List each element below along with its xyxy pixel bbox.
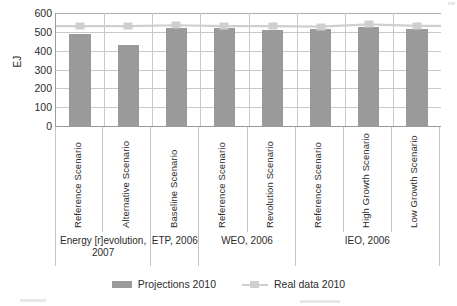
- category-label: Reference Scenario: [72, 142, 83, 228]
- y-tick-label: 300: [18, 65, 52, 75]
- scan-artifact: [300, 300, 340, 303]
- group-label: Energy [r]evolution, 2007: [56, 235, 150, 259]
- chart-legend: Projections 2010 Real data 2010: [0, 274, 457, 294]
- scan-artifact: [448, 2, 455, 5]
- category-label: Reference Scenario: [216, 142, 227, 228]
- group-cell: IEO, 2006: [296, 232, 440, 266]
- category-cell: Alternative Scenario: [103, 127, 151, 232]
- category-cell: Reference Scenario: [55, 127, 103, 232]
- data-point-marker: [412, 22, 421, 29]
- category-label: Reference Scenario: [312, 142, 323, 228]
- legend-item-real-data: Real data 2010: [242, 278, 345, 290]
- data-point-marker: [268, 23, 277, 30]
- category-label: Low Growth Scenario: [408, 135, 419, 228]
- category-label: Revolution Scenario: [264, 141, 275, 228]
- group-label: ETP, 2006: [152, 235, 198, 247]
- category-axis: Reference ScenarioAlternative ScenarioBa…: [55, 127, 440, 232]
- y-tick-label: 100: [18, 102, 52, 112]
- group-cell: WEO, 2006: [199, 232, 295, 266]
- category-cell: Reference Scenario: [296, 127, 344, 232]
- data-point-marker: [76, 23, 85, 30]
- category-cell: Low Growth Scenario: [392, 127, 440, 232]
- data-point-marker: [220, 23, 229, 30]
- category-label: High Growth Scenario: [360, 133, 371, 228]
- y-axis-tick-labels: 6005004003002001000: [18, 0, 52, 135]
- category-cell: Baseline Scenario: [151, 127, 199, 232]
- group-label: WEO, 2006: [221, 235, 273, 247]
- category-cell: Revolution Scenario: [248, 127, 296, 232]
- group-axis: Energy [r]evolution, 2007ETP, 2006WEO, 2…: [55, 232, 440, 266]
- data-point-marker: [172, 22, 181, 29]
- data-point-marker: [316, 23, 325, 30]
- y-tick-label: 600: [18, 8, 52, 18]
- category-label: Alternative Scenario: [120, 141, 131, 228]
- group-cell: Energy [r]evolution, 2007: [55, 232, 151, 266]
- scan-artifact: [20, 299, 46, 302]
- y-tick-label: 500: [18, 27, 52, 37]
- legend-label-real-data: Real data 2010: [274, 278, 345, 290]
- bar-chart: EJ 6005004003002001000 Reference Scenari…: [0, 0, 457, 306]
- category-cell: High Growth Scenario: [344, 127, 392, 232]
- real-data-line: [56, 13, 441, 126]
- category-cell: Reference Scenario: [199, 127, 247, 232]
- group-label: IEO, 2006: [345, 235, 390, 247]
- plot-area: [55, 13, 441, 127]
- y-tick-label: 200: [18, 83, 52, 93]
- data-point-marker: [364, 21, 373, 28]
- data-point-marker: [124, 23, 133, 30]
- bar-swatch-icon: [112, 281, 132, 288]
- y-tick-label: 400: [18, 46, 52, 56]
- y-tick-label: 0: [18, 121, 52, 131]
- line-swatch-icon: [242, 280, 268, 289]
- category-label: Baseline Scenario: [168, 150, 179, 228]
- legend-item-projections: Projections 2010: [112, 278, 216, 290]
- legend-label-projections: Projections 2010: [138, 278, 216, 290]
- group-cell: ETP, 2006: [151, 232, 199, 266]
- line-swatch-marker: [250, 281, 259, 288]
